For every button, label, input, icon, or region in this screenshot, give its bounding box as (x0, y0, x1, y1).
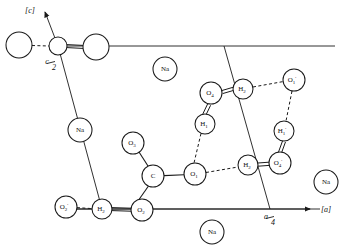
atom-label: C (151, 172, 156, 180)
atom-h1-prime[interactable]: H1' (274, 121, 294, 141)
atom-o4[interactable]: O4 (200, 82, 222, 104)
bond-double-upper (258, 162, 269, 163)
atom-c[interactable]: C (142, 165, 164, 187)
structure-canvas: Na Na Na Na O4 H2 (0, 0, 341, 251)
axis-label-group: [c] [a] c 2 a 4 (25, 6, 331, 227)
atom-open-circle[interactable] (6, 32, 32, 58)
atom-label: Na (322, 178, 331, 186)
atom-na[interactable]: Na (200, 220, 224, 244)
c-half-denominator: 2 (52, 63, 56, 72)
a-quarter-denominator: 4 (271, 218, 275, 227)
bond-double-lower (112, 211, 131, 212)
bond-dashed (206, 167, 238, 173)
bond-dashed (194, 134, 201, 164)
atom-o2-prime[interactable]: O2' (55, 196, 77, 218)
atom-o4-prime[interactable]: O4' (269, 152, 291, 174)
atom-h2-mid[interactable]: H2 (238, 155, 258, 175)
c-half-numerator: c (45, 57, 49, 66)
bond-solid (139, 152, 148, 166)
bond-dashed (32, 46, 49, 47)
bond-double-lower (258, 165, 269, 166)
atom-na[interactable]: Na (68, 118, 92, 142)
bond-dashed (286, 91, 292, 121)
atom-open-circle[interactable] (83, 34, 109, 60)
bond-solid (164, 175, 184, 176)
crystal-structure-diagram: Na Na Na Na O4 H2 (0, 0, 341, 251)
bond-double-upper (112, 208, 131, 209)
bond-double-lower (223, 90, 234, 93)
atom-h1-mid[interactable]: H1 (195, 114, 215, 134)
c-axis-label: [c] (25, 6, 35, 15)
atom-label: Na (161, 65, 170, 73)
bond-solid (139, 186, 149, 200)
atom-label: Na (76, 126, 85, 134)
a-quarter-label: a 4 (264, 212, 275, 227)
bond-double-upper (222, 87, 233, 90)
atom-h2-top[interactable]: H2 (233, 79, 253, 99)
atom-label: Na (208, 228, 217, 236)
bond-dashed (253, 82, 283, 87)
atom-label: H1' (278, 127, 287, 136)
atom-open-circle[interactable] (49, 37, 67, 55)
atom-o1-prime[interactable]: O1' (283, 69, 305, 91)
atom-o2[interactable]: O2 (131, 199, 153, 221)
atom-label: O4' (274, 159, 283, 168)
atom-label: O2' (60, 203, 69, 212)
atom-label: O1' (288, 76, 297, 85)
bond-dashed (77, 208, 92, 209)
bond-double-lower (67, 48, 83, 49)
atom-o3[interactable]: O3 (122, 132, 144, 154)
a-quarter-numerator: a (264, 212, 268, 221)
open-atom-group (6, 32, 109, 60)
c-half-label: c 2 (45, 57, 56, 72)
atom-o1[interactable]: O1 (184, 163, 206, 185)
atom-h2-bot[interactable]: H2 (92, 199, 112, 219)
cell-edge-slant (224, 46, 270, 209)
bond-double-upper (67, 45, 83, 46)
atom-na[interactable]: Na (314, 170, 338, 194)
a-axis-label: [a] (321, 205, 331, 214)
atom-na[interactable]: Na (153, 57, 177, 81)
